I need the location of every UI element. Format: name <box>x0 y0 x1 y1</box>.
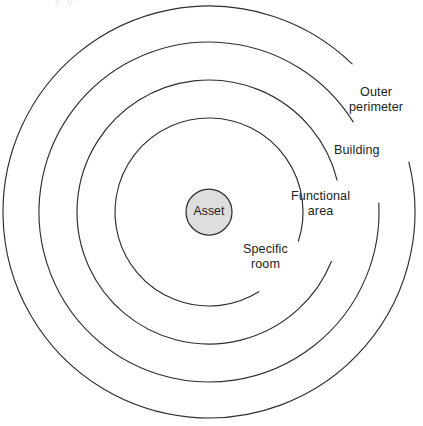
concentric-security-rings-figure: y p SpecificroomFunctionalareaBuildingOu… <box>0 0 423 426</box>
asset-core-label: Asset <box>149 205 269 218</box>
